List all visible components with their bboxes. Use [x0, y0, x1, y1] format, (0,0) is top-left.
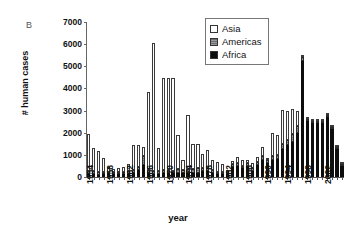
bar-1996: [296, 111, 299, 177]
x-tick-mark: [233, 177, 234, 180]
bar-segment-africa: [236, 166, 239, 177]
bar-segment-asia: [216, 162, 219, 172]
bar-1972: [176, 135, 179, 177]
y-tick-mark: [84, 133, 88, 134]
x-axis-title: year: [0, 212, 356, 223]
bar-segment-asia: [271, 133, 274, 156]
x-tick-label-1974: 1974: [184, 165, 194, 184]
y-tick-mark: [84, 155, 88, 156]
bar-segment-asia: [196, 144, 199, 169]
figure-panel-b: B # human cases 010002000300040005000600…: [0, 0, 356, 234]
bar-segment-asia: [142, 147, 145, 157]
legend-label-asia: Asia: [222, 23, 240, 34]
x-tick-mark: [198, 177, 199, 180]
x-tick-label-1954: 1954: [85, 165, 95, 184]
x-tick-label-1970: 1970: [165, 165, 175, 184]
x-tick-mark: [94, 177, 95, 180]
bar-1964: [137, 145, 140, 177]
bar-segment-americas: [296, 126, 299, 133]
x-tick-label-1998: 1998: [303, 165, 313, 184]
y-tick-mark: [84, 88, 88, 89]
y-tick-mark: [84, 66, 88, 67]
bar-1984: [236, 157, 239, 177]
x-tick-mark: [173, 177, 174, 180]
x-tick-mark: [337, 177, 338, 180]
bar-segment-asia: [291, 109, 294, 134]
x-tick-label-1978: 1978: [204, 165, 214, 184]
bar-segment-asia: [176, 135, 179, 169]
x-tick-mark: [312, 177, 313, 180]
bar-segment-africa: [335, 149, 338, 177]
x-tick-mark: [218, 177, 219, 180]
bar-1988: [256, 157, 259, 177]
x-tick-label-1990: 1990: [263, 165, 273, 184]
bar-1956: [97, 151, 100, 177]
x-tick-mark: [297, 177, 298, 180]
bar-segment-asia: [147, 92, 150, 170]
x-tick-mark: [342, 177, 343, 180]
bar-segment-asia: [296, 111, 299, 126]
y-tick-mark: [84, 111, 88, 112]
bar-segment-asia: [137, 145, 140, 167]
legend-swatch-africa: [210, 51, 218, 59]
bar-segment-asia: [286, 111, 289, 140]
bar-segment-africa: [296, 133, 299, 177]
legend-swatch-americas: [210, 38, 218, 46]
bar-segment-asia: [152, 43, 155, 171]
bar-segment-asia: [261, 147, 264, 156]
legend-swatch-asia: [210, 25, 218, 33]
x-tick-mark: [238, 177, 239, 180]
x-tick-mark: [139, 177, 140, 180]
x-tick-mark: [178, 177, 179, 180]
x-tick-mark: [317, 177, 318, 180]
y-tick-mark: [84, 22, 88, 23]
bar-segment-americas: [291, 134, 294, 142]
bar-2004: [335, 145, 338, 177]
bar-segment-asia: [281, 110, 284, 144]
legend-item-americas: Americas: [210, 35, 262, 48]
bar-segment-africa: [256, 165, 259, 177]
bar-1992: [276, 135, 279, 177]
x-tick-mark: [258, 177, 259, 180]
x-tick-label-1966: 1966: [145, 165, 155, 184]
bar-segment-africa: [301, 61, 304, 177]
x-tick-mark: [154, 177, 155, 180]
x-tick-mark: [213, 177, 214, 180]
x-tick-label-1958: 1958: [105, 165, 115, 184]
bar-1960: [117, 168, 120, 177]
bar-segment-asia: [157, 148, 160, 171]
bar-1969: [162, 78, 165, 177]
bar-segment-asia: [97, 151, 100, 172]
x-tick-mark: [119, 177, 120, 180]
bar-1968: [157, 148, 160, 177]
x-tick-mark: [292, 177, 293, 180]
legend-label-americas: Americas: [222, 36, 262, 47]
x-tick-mark: [114, 177, 115, 180]
x-tick-mark: [193, 177, 194, 180]
x-tick-mark: [332, 177, 333, 180]
bar-1967: [152, 43, 155, 177]
bar-1980: [216, 162, 219, 177]
x-tick-label-1962: 1962: [125, 165, 135, 184]
bar-segment-africa: [316, 123, 319, 177]
legend-item-asia: Asia: [210, 22, 262, 35]
bar-segment-americas: [142, 156, 145, 164]
bar-segment-asia: [167, 78, 170, 170]
bar-1976: [196, 144, 199, 177]
x-tick-mark: [99, 177, 100, 180]
bar-segment-africa: [340, 166, 343, 177]
x-tick-mark: [253, 177, 254, 180]
bar-segment-africa: [137, 170, 140, 177]
legend-label-africa: Africa: [222, 49, 246, 60]
x-tick-label-1986: 1986: [244, 165, 254, 184]
bar-1997: [301, 55, 304, 177]
x-tick-label-2002: 2002: [323, 165, 333, 184]
y-tick-mark: [84, 44, 88, 45]
legend-item-africa: Africa: [210, 48, 262, 61]
x-tick-mark: [159, 177, 160, 180]
legend: Asia Americas Africa: [205, 18, 269, 65]
x-tick-mark: [277, 177, 278, 180]
x-tick-mark: [272, 177, 273, 180]
bar-segment-asia: [171, 78, 174, 170]
x-tick-mark: [134, 177, 135, 180]
